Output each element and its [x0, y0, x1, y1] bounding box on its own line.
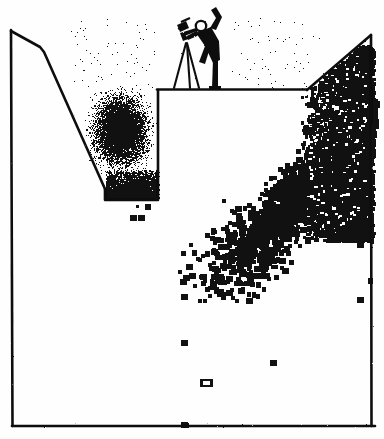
- figure-linework: [0, 0, 384, 439]
- tripod-legs: [174, 43, 199, 88]
- left-diagonal-slope: [11, 31, 105, 189]
- right-diagonal-slope: [307, 35, 371, 90]
- surveyor-body: [187, 7, 222, 90]
- left-vertical-axis: [11, 30, 13, 426]
- right-vertical-axis: [371, 35, 372, 426]
- scatter-plot-figure: [0, 0, 384, 439]
- center-plateau-step: [105, 90, 158, 200]
- surveyor-figure: [174, 7, 222, 90]
